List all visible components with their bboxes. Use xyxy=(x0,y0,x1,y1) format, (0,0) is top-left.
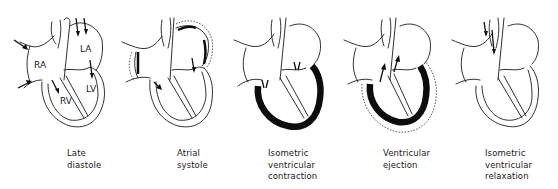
caption-line: diastole xyxy=(67,160,101,172)
caption-isometric-contraction: Isometric ventricular contraction xyxy=(268,148,317,183)
caption-atrial-systole: Atrial systole xyxy=(177,148,208,171)
heart-late-diastole: RA LA RV LV xyxy=(0,0,115,140)
label-rv: RV xyxy=(60,96,73,106)
caption-line: Ventricular xyxy=(383,148,430,160)
caption-line: Isometric xyxy=(268,148,317,160)
label-lv: LV xyxy=(86,84,97,94)
caption-line: Late xyxy=(67,148,101,160)
label-la: LA xyxy=(80,44,92,54)
caption-line: ventricular xyxy=(268,160,317,172)
heart-ventricular-ejection xyxy=(334,0,449,140)
caption-line: ejection xyxy=(383,160,430,172)
heart-isometric-contraction xyxy=(224,0,339,140)
cardiac-cycle-diagram: RA LA RV LV xyxy=(0,0,558,189)
heart-atrial-systole xyxy=(112,0,227,140)
caption-line: Isometric xyxy=(485,148,532,160)
caption-isometric-relaxation: Isometric ventricular relaxation xyxy=(485,148,532,183)
caption-line: systole xyxy=(177,160,208,172)
caption-line: Atrial xyxy=(177,148,208,160)
caption-line: relaxation xyxy=(485,171,532,183)
caption-line: contraction xyxy=(268,171,317,183)
caption-line: ventricular xyxy=(485,160,532,172)
label-ra: RA xyxy=(34,60,47,70)
caption-late-diastole: Late diastole xyxy=(67,148,101,171)
caption-ventricular-ejection: Ventricular ejection xyxy=(383,148,430,171)
heart-isometric-relaxation xyxy=(442,0,557,140)
